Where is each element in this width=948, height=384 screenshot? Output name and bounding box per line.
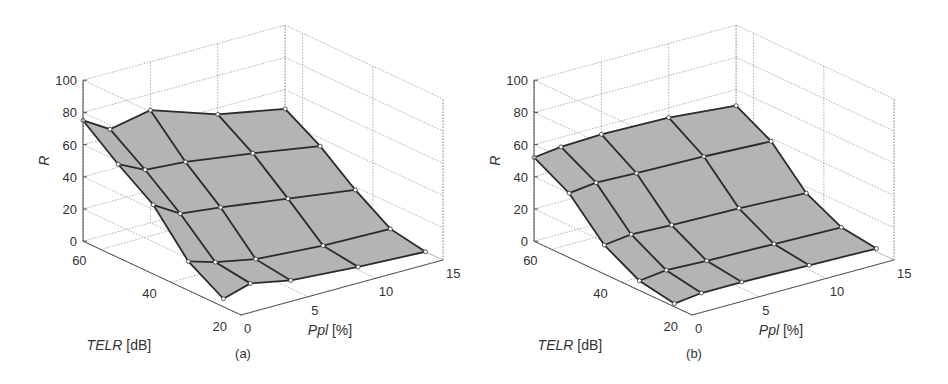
data-point: [356, 265, 360, 269]
data-point: [635, 171, 639, 175]
z-tick-label: 80: [63, 105, 77, 120]
data-point: [353, 188, 357, 192]
grid-line: [83, 25, 285, 80]
telr-tick-label: 40: [593, 286, 607, 301]
data-point: [769, 139, 773, 143]
data-point: [186, 259, 190, 263]
data-point: [216, 112, 220, 116]
data-point: [143, 168, 147, 172]
data-point: [602, 243, 606, 247]
data-point: [637, 279, 641, 283]
ppl-axis-label: Ppl [%]: [308, 322, 352, 338]
data-point: [108, 127, 112, 131]
data-point: [772, 242, 776, 246]
z-tick-label: 40: [63, 170, 77, 185]
data-point: [567, 191, 571, 195]
telr-tick-label: 60: [523, 253, 537, 268]
data-point: [737, 206, 741, 210]
data-point: [839, 225, 843, 229]
data-point: [286, 197, 290, 201]
chart-svg-a: 020406080100204060051015RTELR [dB]Ppl [%…: [0, 0, 474, 384]
z-tick-label: 0: [521, 234, 528, 249]
telr-axis-label: TELR [dB]: [538, 337, 603, 353]
data-point: [705, 259, 709, 263]
z-tick-label: 100: [55, 73, 77, 88]
data-point: [221, 297, 225, 301]
ppl-tick-label: 10: [379, 284, 393, 299]
data-point: [424, 250, 428, 254]
data-point: [254, 257, 258, 261]
data-point: [219, 205, 223, 209]
ppl-tick-label: 5: [311, 303, 318, 318]
data-point: [248, 281, 252, 285]
data-point: [388, 227, 392, 231]
data-point: [321, 244, 325, 248]
chart-panel-a: 020406080100204060051015RTELR [dB]Ppl [%…: [0, 0, 474, 384]
data-point: [559, 145, 563, 149]
data-point: [664, 268, 668, 272]
telr-tick-label: 40: [142, 286, 156, 301]
z-tick-label: 80: [514, 105, 528, 120]
z-tick-label: 100: [506, 73, 528, 88]
data-point: [594, 181, 598, 185]
z-axis-label: R: [36, 156, 52, 166]
data-point: [283, 107, 287, 111]
data-point: [804, 191, 808, 195]
data-point: [178, 212, 182, 216]
ppl-tick-label: 5: [762, 303, 769, 318]
data-point: [213, 260, 217, 264]
data-point: [702, 155, 706, 159]
data-point: [151, 203, 155, 207]
data-point: [699, 291, 703, 295]
data-point: [734, 104, 738, 108]
data-point: [672, 302, 676, 306]
data-point: [629, 232, 633, 236]
z-axis-label: R: [487, 156, 503, 166]
z-tick-label: 20: [63, 202, 77, 217]
data-point: [740, 280, 744, 284]
data-point: [289, 278, 293, 282]
z-tick-label: 40: [514, 170, 528, 185]
data-point: [148, 108, 152, 112]
z-tick-label: 60: [63, 138, 77, 153]
grid-line: [285, 57, 443, 131]
data-point: [667, 116, 671, 120]
grid-line: [83, 57, 285, 112]
ppl-axis-label: Ppl [%]: [759, 322, 803, 338]
data-point: [599, 132, 603, 136]
ppl-tick-label: 0: [695, 321, 702, 336]
chart-svg-b: 020406080100204060051015RTELR [dB]Ppl [%…: [451, 0, 925, 384]
z-tick-label: 0: [70, 234, 77, 249]
data-point: [184, 160, 188, 164]
grid-line: [285, 25, 443, 99]
ppl-tick-label: 0: [244, 321, 251, 336]
data-point: [251, 151, 255, 155]
telr-tick-label: 20: [213, 319, 227, 334]
data-point: [875, 247, 879, 251]
data-point: [318, 144, 322, 148]
panel-caption: (a): [235, 346, 251, 361]
chart-panel-b: 020406080100204060051015RTELR [dB]Ppl [%…: [451, 0, 925, 384]
telr-tick-label: 20: [664, 319, 678, 334]
telr-tick-label: 60: [72, 253, 86, 268]
z-tick-label: 60: [514, 138, 528, 153]
data-point: [807, 263, 811, 267]
ppl-tick-label: 10: [830, 284, 844, 299]
data-point: [116, 162, 120, 166]
z-tick-label: 20: [514, 202, 528, 217]
telr-axis-label: TELR [dB]: [87, 337, 152, 353]
panel-caption: (b): [686, 346, 702, 361]
grid-line: [736, 57, 894, 131]
grid-line: [736, 25, 894, 99]
ppl-tick-label: 15: [897, 266, 911, 281]
grid-line: [534, 57, 736, 112]
data-point: [670, 223, 674, 227]
grid-line: [534, 25, 736, 80]
